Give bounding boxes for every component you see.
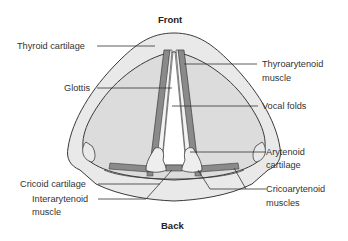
label-cricoarytenoid-line2: muscles xyxy=(266,197,300,209)
label-vocal-folds: Vocal folds xyxy=(262,100,306,112)
label-cricoarytenoid-line1: Cricoarytenoid xyxy=(266,183,325,195)
interarytenoid-muscle xyxy=(166,165,182,171)
label-cricoid-cartilage: Cricoid cartilage xyxy=(20,178,86,190)
label-thyroarytenoid-line2: muscle xyxy=(262,72,291,84)
label-arytenoid-line1: Arytenoid xyxy=(266,146,305,158)
label-front: Front xyxy=(158,14,182,26)
label-glottis: Glottis xyxy=(64,82,90,94)
label-interarytenoid-line2: muscle xyxy=(32,206,61,218)
label-thyroarytenoid-line1: Thyroarytenoid xyxy=(262,58,323,70)
label-interarytenoid-line1: Interarytenoid xyxy=(32,193,88,205)
label-arytenoid-line2: cartilage xyxy=(266,159,301,171)
label-back: Back xyxy=(161,220,184,232)
left-nub xyxy=(147,172,153,176)
label-thyroid-cartilage: Thyroid cartilage xyxy=(17,40,85,52)
